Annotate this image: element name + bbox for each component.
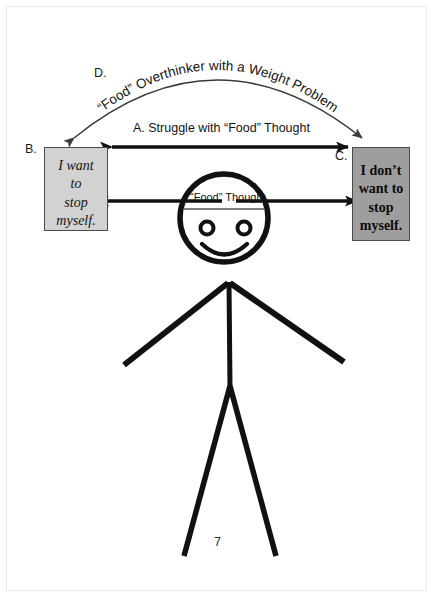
label-a-struggle-caption: A. Struggle with “Food” Thought <box>133 121 310 135</box>
diagram-canvas: “Food” Overthinker with a Weight Problem <box>0 0 435 599</box>
box-c-i-dont-want-to-stop: I don’t want to stop myself. <box>352 147 410 241</box>
figure-head <box>180 174 268 262</box>
label-c: C. <box>335 149 348 163</box>
figure-left-leg <box>184 386 230 556</box>
stick-figure <box>124 174 344 556</box>
figure-right-eye <box>238 222 251 235</box>
figure-left-eye <box>201 222 214 235</box>
head-food-thought-label: “Food” Thought <box>190 191 266 203</box>
box-c-line-3: stop <box>353 199 409 217</box>
figure-left-arm <box>124 283 228 365</box>
figure-right-leg <box>230 386 276 556</box>
figure-right-arm <box>230 283 344 362</box>
page-number: 7 <box>0 535 435 549</box>
label-b: B. <box>25 142 37 156</box>
label-d: D. <box>94 66 107 80</box>
figure-torso <box>229 282 230 388</box>
arc-title-text: “Food” Overthinker with a Weight Problem <box>95 58 341 115</box>
box-b-line-2: to <box>45 175 107 193</box>
diagram-page: “Food” Overthinker with a Weight Problem <box>0 0 435 599</box>
box-c-line-4: myself. <box>353 217 409 235</box>
box-b-line-4: myself. <box>45 212 107 230</box>
box-b-i-want-to-stop: I want to stop myself. <box>44 147 108 231</box>
box-c-line-1: I don’t <box>353 162 409 180</box>
box-c-line-2: want to <box>353 180 409 198</box>
box-b-line-3: stop <box>45 194 107 212</box>
box-b-line-1: I want <box>45 157 107 175</box>
